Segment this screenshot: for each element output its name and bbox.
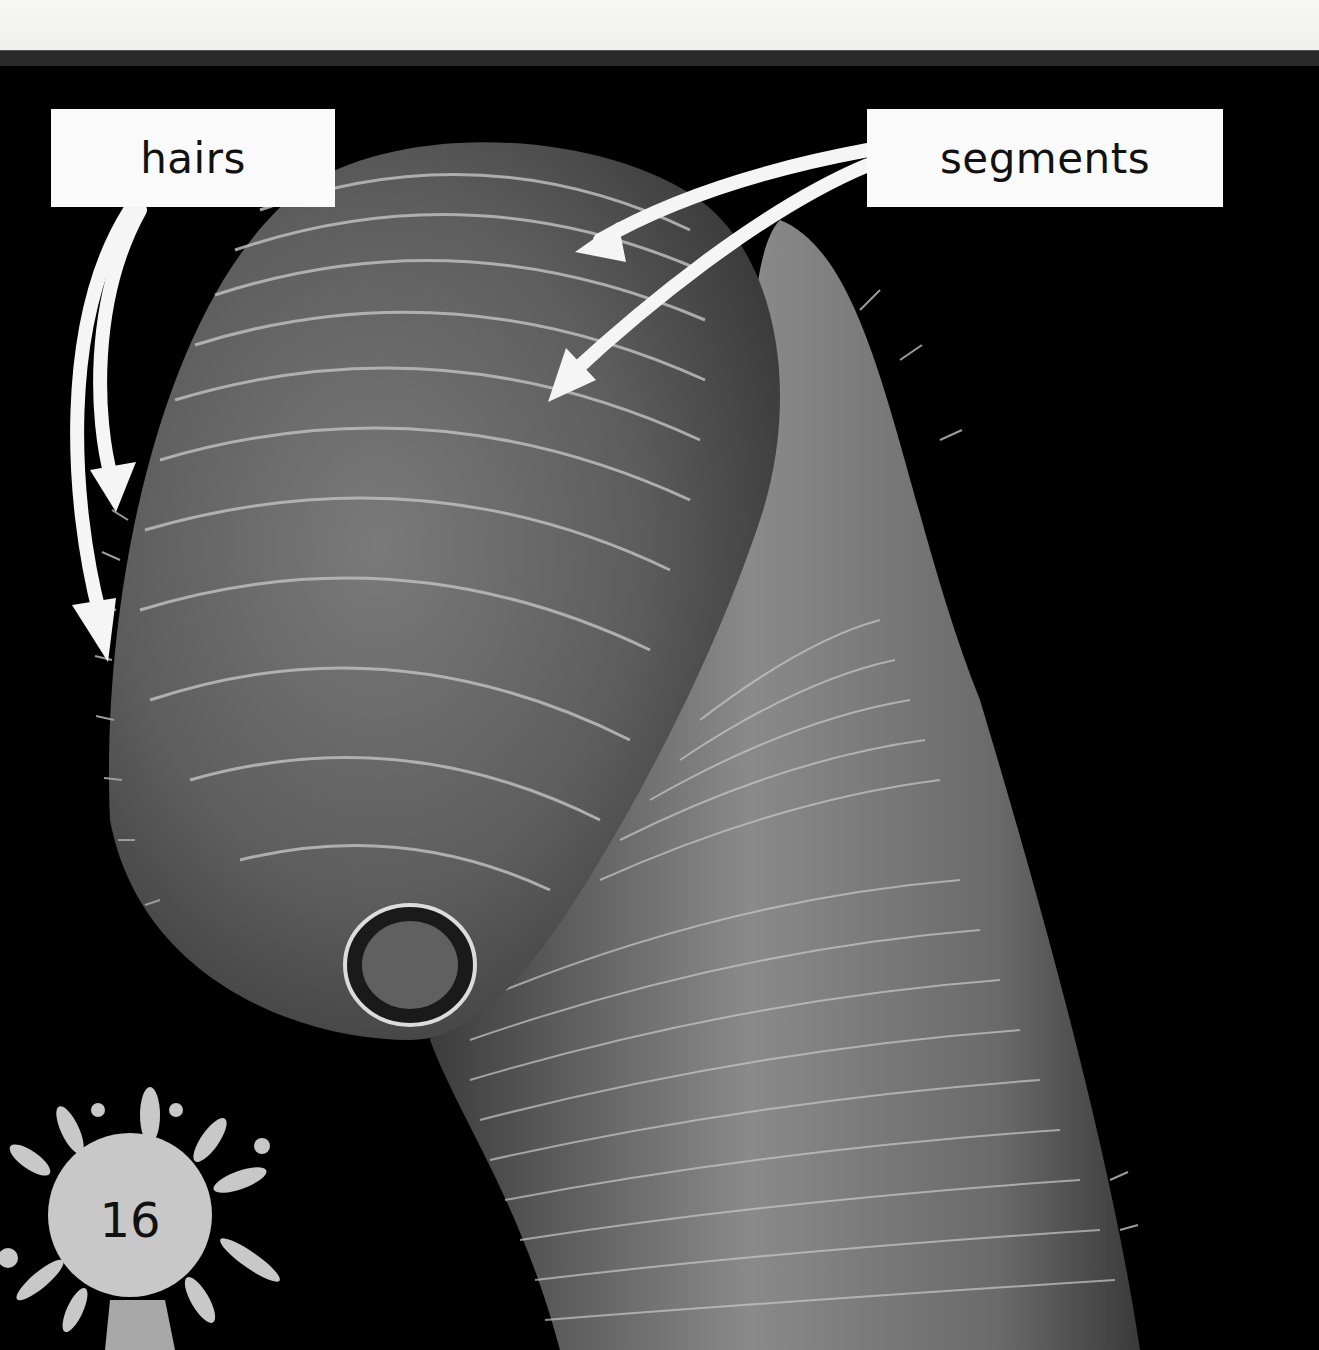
worm-illustration [0, 66, 1319, 1350]
label-hairs: hairs [51, 109, 335, 207]
page-top-margin [0, 0, 1319, 50]
worm-micrograph [0, 66, 1319, 1350]
hairs-arrowhead-2 [72, 598, 116, 662]
label-segments-text: segments [940, 134, 1150, 183]
label-hairs-text: hairs [140, 134, 246, 183]
page-top-border [0, 50, 1319, 67]
label-segments: segments [867, 109, 1223, 207]
hairs-arrowhead-1 [90, 462, 136, 512]
page-number: 16 [80, 1185, 180, 1255]
